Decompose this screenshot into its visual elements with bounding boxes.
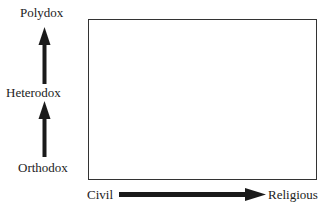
arrow-up-icon xyxy=(39,101,51,157)
label-religious: Religious xyxy=(268,188,318,202)
arrows-layer xyxy=(0,0,336,212)
label-civil: Civil xyxy=(87,188,113,202)
arrow-up-icon xyxy=(39,27,51,84)
arrow-right-icon xyxy=(119,188,266,201)
